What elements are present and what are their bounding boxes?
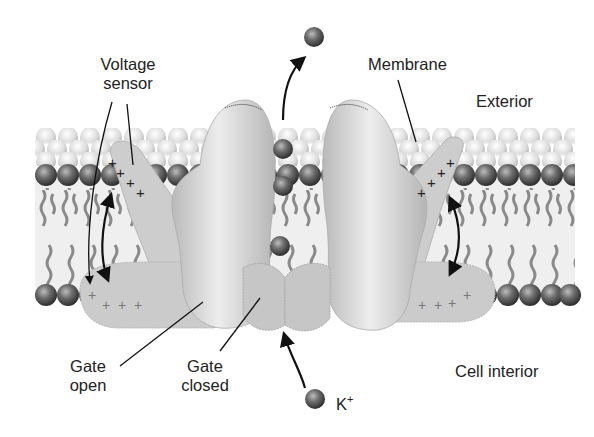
- charge: +: [448, 295, 456, 311]
- k-ion-pore-3: [270, 236, 290, 256]
- cell-interior-label: Cell interior: [455, 362, 538, 381]
- charge: +: [136, 184, 145, 201]
- charge: +: [116, 164, 125, 181]
- potassium-ion-label: K+: [336, 390, 353, 414]
- charge: +: [446, 154, 455, 171]
- left-gate-region: [243, 263, 285, 330]
- charge: +: [437, 164, 446, 181]
- charge: +: [118, 297, 126, 313]
- k-ion-pore-2: [273, 176, 293, 196]
- right-gate-region: [285, 263, 330, 330]
- potassium-channel-diagram: + + + + + + + + + + + + + + + +: [0, 0, 594, 437]
- charge: +: [427, 174, 436, 191]
- exterior-label: Exterior: [476, 92, 533, 111]
- gate-open-label: Gate open: [58, 357, 118, 395]
- ion-entry-arrow: [284, 334, 305, 388]
- charge: +: [434, 297, 442, 313]
- charge: +: [88, 287, 96, 303]
- k-ion-exiting: [304, 27, 324, 47]
- gate-closed-label-line1: Gate: [172, 357, 238, 376]
- gate-closed-label: Gate closed: [172, 357, 238, 395]
- charge: +: [418, 297, 426, 313]
- membrane-label: Membrane: [368, 55, 447, 74]
- gate-open-label-line1: Gate: [58, 357, 118, 376]
- charge: +: [102, 297, 110, 313]
- gate-closed-label-line2: closed: [172, 376, 238, 395]
- charge: +: [463, 287, 471, 303]
- k-ion-pore-1: [273, 139, 293, 159]
- charge: +: [134, 297, 142, 313]
- gate-open-label-line2: open: [58, 376, 118, 395]
- ion-symbol: K: [336, 395, 347, 413]
- voltage-sensor-label-line1: Voltage: [88, 55, 168, 74]
- charge: +: [417, 184, 426, 201]
- charge: +: [126, 174, 135, 191]
- k-ion-entering: [305, 389, 325, 409]
- ion-exit-arrow: [283, 58, 304, 120]
- ion-charge: +: [347, 393, 353, 405]
- voltage-sensor-label-line2: sensor: [88, 74, 168, 93]
- voltage-sensor-label: Voltage sensor: [88, 55, 168, 93]
